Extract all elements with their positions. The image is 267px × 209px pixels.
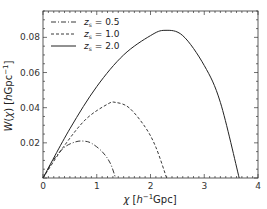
curves	[43, 30, 239, 178]
curve-series-1	[43, 102, 167, 178]
y-tick-label: 0.02	[20, 138, 40, 148]
svg-text:χ [h−1Gpc]: χ [h−1Gpc]	[122, 193, 176, 205]
x-tick-label: 1	[94, 181, 100, 191]
x-tick-label: 4	[255, 181, 261, 191]
curve-series-0	[43, 141, 116, 178]
x-tick-label: 2	[148, 181, 154, 191]
tick-labels: 012340.020.040.060.08	[20, 32, 261, 191]
y-axis-label: W(χ) [hGpc−1]	[2, 60, 14, 131]
curve-series-2	[43, 30, 239, 178]
y-tick-label: 0.08	[20, 32, 40, 42]
x-tick-label: 0	[40, 181, 46, 191]
svg-text:W(χ) [hGpc−1]: W(χ) [hGpc−1]	[2, 60, 14, 131]
y-tick-label: 0.04	[20, 103, 40, 113]
legend: zs = 0.5zs = 1.0zs = 2.0	[51, 17, 120, 52]
y-tick-label: 0.06	[20, 68, 40, 78]
legend-label-1: zs = 1.0	[83, 29, 120, 40]
legend-label-2: zs = 2.0	[83, 41, 120, 52]
x-tick-label: 3	[201, 181, 207, 191]
chart: 012340.020.040.060.08 χ [h−1Gpc] W(χ) [h…	[0, 0, 267, 209]
x-axis-label: χ [h−1Gpc]	[122, 193, 176, 205]
legend-label-0: zs = 0.5	[83, 17, 119, 28]
